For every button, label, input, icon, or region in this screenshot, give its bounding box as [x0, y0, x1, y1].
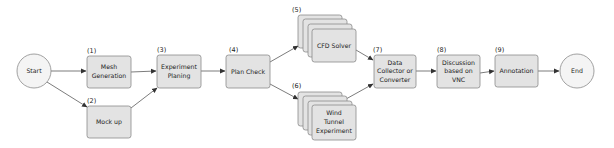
node-label: Wind — [326, 109, 342, 116]
node-number: (5) — [292, 6, 301, 14]
node-label: Collector or — [377, 67, 413, 74]
edge-n4-n5 — [270, 46, 298, 62]
flowchart: Start (1) Mesh Generation (2) Mock up (3… — [0, 0, 614, 148]
node-label: Tunnel — [323, 118, 344, 125]
node-experiment-planing: (3) Experiment Planing — [157, 46, 201, 88]
node-label: Annotation — [500, 67, 534, 74]
edge-start-n2 — [47, 82, 87, 107]
node-mesh-generation: (1) Mesh Generation — [87, 47, 131, 88]
node-number: (6) — [292, 82, 301, 90]
node-label: Mock up — [96, 118, 122, 126]
edge-n2-n3 — [131, 88, 157, 108]
node-label: based on — [444, 67, 472, 74]
node-number: (2) — [87, 97, 96, 105]
node-plan-check: (4) Plan Check — [226, 46, 270, 88]
node-label: Discussion — [442, 59, 475, 66]
node-label: Generation — [92, 72, 127, 79]
node-start: Start — [17, 54, 51, 88]
node-mock-up: (2) Mock up — [87, 97, 131, 138]
edge-n5-n7 — [356, 50, 373, 60]
edge-n1-n3 — [131, 71, 156, 72]
node-label: Experiment — [316, 127, 352, 135]
node-label: Data — [388, 59, 403, 66]
node-label: Experiment — [161, 63, 197, 71]
node-label: Plan Check — [231, 68, 266, 75]
node-label: CFD Solver — [317, 42, 352, 49]
node-wind-tunnel-experiment: (6) Wind Tunnel Experiment — [292, 82, 356, 140]
node-end: End — [560, 54, 594, 88]
node-label: VNC — [452, 76, 465, 83]
node-number: (7) — [373, 46, 382, 54]
node-label: Mesh — [101, 63, 117, 70]
node-number: (4) — [229, 46, 238, 54]
node-discussion-vnc: (8) Discussion based on VNC — [437, 46, 480, 88]
node-number: (1) — [87, 47, 96, 55]
node-number: (8) — [437, 46, 446, 54]
edge-n6-n7 — [346, 84, 373, 99]
node-annotation: (9) Annotation — [495, 46, 538, 87]
node-number: (9) — [495, 46, 504, 54]
start-label: Start — [26, 67, 42, 74]
node-cfd-solver: (5) CFD Solver — [292, 6, 356, 62]
edge-n8-n9 — [480, 71, 494, 73]
end-label: End — [571, 67, 583, 74]
node-label: Planing — [168, 72, 191, 80]
node-data-collector: (7) Data Collector or Converter — [373, 46, 416, 88]
node-number: (3) — [157, 46, 166, 54]
node-label: Converter — [380, 76, 411, 83]
